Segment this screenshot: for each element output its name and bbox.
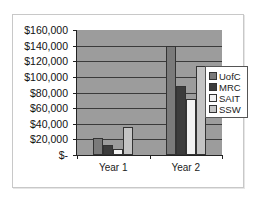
y-tick [73, 124, 77, 125]
legend-item-uofc: UofC [209, 71, 241, 82]
bar-sait-year-2 [186, 99, 196, 155]
legend-swatch-icon [209, 83, 217, 91]
legend-item-sait: SAIT [209, 93, 240, 104]
x-tick [77, 155, 78, 159]
gridline [77, 46, 222, 47]
legend-item-ssw: SSW [209, 104, 241, 115]
y-tick [73, 139, 77, 140]
bar-mrc-year-1 [103, 145, 113, 155]
y-tick-label: $80,000 [30, 87, 68, 99]
y-tick [73, 108, 77, 109]
y-tick [73, 46, 77, 47]
plot-area [77, 30, 222, 155]
y-tick-label: $100,000 [24, 71, 68, 83]
y-tick-label: $20,000 [30, 133, 68, 145]
gridline [77, 61, 222, 62]
x-tick [222, 155, 223, 159]
bar-uofc-year-1 [93, 138, 103, 155]
y-tick [73, 93, 77, 94]
y-tick-label: $60,000 [30, 102, 68, 114]
legend-swatch-icon [209, 105, 217, 113]
x-tick-label: Year 1 [88, 162, 138, 173]
legend-item-mrc: MRC [209, 82, 241, 93]
x-tick [150, 155, 151, 159]
legend: UofC MRC SAIT SSW [205, 66, 248, 118]
y-tick-label: $120,000 [24, 55, 68, 67]
y-tick [73, 77, 77, 78]
legend-swatch-icon [209, 72, 217, 80]
y-tick [73, 61, 77, 62]
y-tick [73, 30, 77, 31]
legend-swatch-icon [209, 94, 217, 102]
y-tick-label: $- [59, 149, 68, 161]
y-tick-label: $140,000 [24, 40, 68, 52]
y-tick-label: $160,000 [24, 24, 68, 36]
y-tick-label: $40,000 [30, 118, 68, 130]
bar-ssw-year-1 [123, 127, 133, 155]
bar-uofc-year-2 [166, 46, 176, 155]
x-tick-label: Year 2 [161, 162, 211, 173]
bar-mrc-year-2 [176, 86, 186, 155]
